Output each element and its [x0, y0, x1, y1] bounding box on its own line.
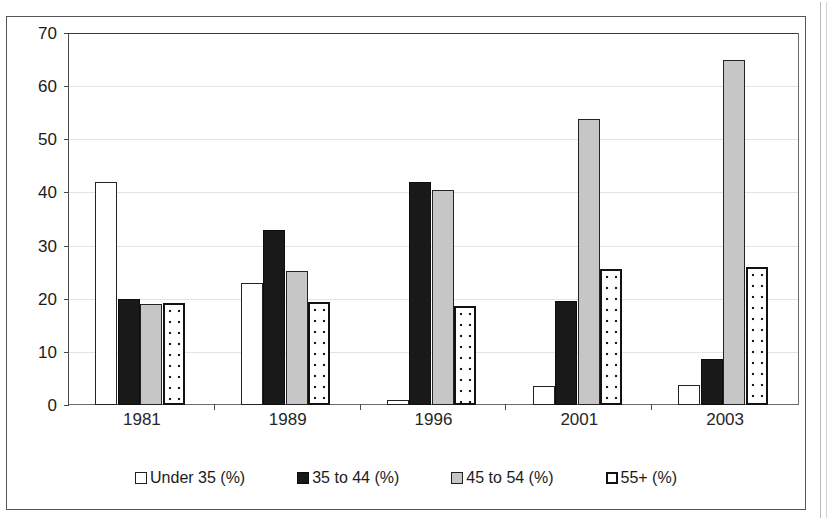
- bar-1996-series-1: [409, 182, 431, 405]
- bar-1989-series-1: [263, 230, 285, 405]
- legend-item-2: 45 to 54 (%): [451, 470, 553, 486]
- legend-item-3: 55+ (%): [606, 470, 677, 486]
- x-axis: 19811989199620012003: [69, 411, 798, 437]
- y-tick-mark: [64, 405, 69, 406]
- bar-group: [69, 33, 215, 405]
- legend-swatch-icon: [451, 472, 463, 484]
- bar-group: [215, 33, 361, 405]
- chart-legend: Under 35 (%)35 to 44 (%)45 to 54 (%)55+ …: [17, 461, 795, 495]
- chart-frame: 010203040506070 19811989199620012003 Und…: [6, 16, 806, 510]
- bar-2001-series-1: [555, 301, 577, 405]
- legend-swatch-icon: [135, 472, 147, 484]
- legend-item-0: Under 35 (%): [135, 470, 245, 486]
- bar-group: [652, 33, 798, 405]
- page-edge-rule-secondary: [826, 2, 827, 518]
- bar-2003-series-2: [723, 60, 745, 405]
- bar-1989-series-0: [241, 283, 263, 405]
- y-tick-label: 10: [38, 343, 57, 360]
- y-tick-label: 60: [38, 78, 57, 95]
- bar-group: [361, 33, 507, 405]
- y-tick-label: 20: [38, 290, 57, 307]
- y-axis: 010203040506070: [17, 33, 63, 429]
- y-tick-label: 30: [38, 237, 57, 254]
- bar-1996-series-0: [387, 400, 409, 405]
- x-axis-baseline: [68, 33, 798, 34]
- y-tick-label: 70: [38, 25, 57, 42]
- bar-1981-series-2: [140, 304, 162, 405]
- x-tick-mark: [505, 404, 506, 410]
- legend-swatch-icon: [606, 472, 618, 484]
- bar-1981-series-1: [118, 299, 140, 405]
- legend-label: 35 to 44 (%): [312, 470, 399, 486]
- bar-2001-series-3: [600, 269, 622, 405]
- legend-swatch-icon: [297, 472, 309, 484]
- bar-1989-series-3: [308, 302, 330, 405]
- legend-label: Under 35 (%): [150, 470, 245, 486]
- bar-2003-series-1: [701, 359, 723, 405]
- x-tick-mark: [214, 404, 215, 410]
- y-tick-label: 0: [48, 397, 57, 414]
- legend-label: 45 to 54 (%): [466, 470, 553, 486]
- bar-2001-series-0: [533, 386, 555, 405]
- x-tick-label: 2003: [706, 411, 744, 428]
- bar-1981-series-0: [95, 182, 117, 405]
- bar-1996-series-3: [454, 306, 476, 405]
- bar-2003-series-0: [678, 385, 700, 405]
- x-tick-label: 1989: [269, 411, 307, 428]
- y-tick-label: 40: [38, 184, 57, 201]
- y-tick-label: 50: [38, 131, 57, 148]
- plot-wrapper: 010203040506070 19811989199620012003: [17, 33, 799, 429]
- page-edge-rule: [820, 2, 821, 518]
- legend-label: 55+ (%): [621, 470, 677, 486]
- legend-item-1: 35 to 44 (%): [297, 470, 399, 486]
- x-tick-mark: [651, 404, 652, 410]
- x-tick-mark: [360, 404, 361, 410]
- x-tick-label: 2001: [560, 411, 598, 428]
- bar-2003-series-3: [746, 267, 768, 405]
- x-tick-label: 1981: [123, 411, 161, 428]
- bar-group: [506, 33, 652, 405]
- bar-1981-series-3: [163, 303, 185, 405]
- bar-2001-series-2: [578, 119, 600, 405]
- x-tick-label: 1996: [415, 411, 453, 428]
- bar-1996-series-2: [432, 190, 454, 405]
- bars-layer: [69, 33, 798, 405]
- scan-top-text-fragment: [96, 0, 316, 7]
- bar-1989-series-2: [286, 271, 308, 405]
